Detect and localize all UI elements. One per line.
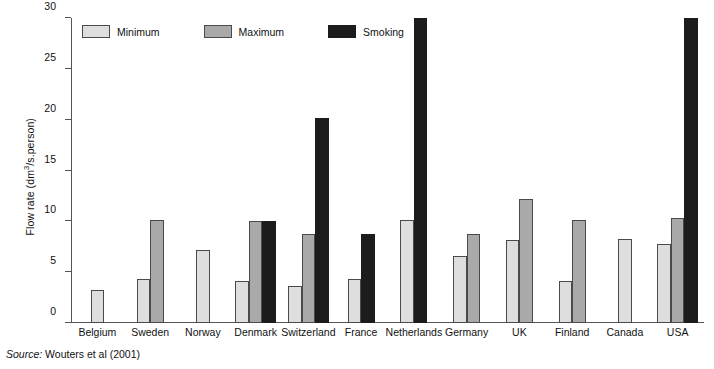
- bar-switzerland-minimum: [288, 286, 302, 323]
- y-axis-title-superscript: 3: [22, 166, 31, 170]
- x-axis-label-sweden: Sweden: [131, 326, 169, 338]
- bar-germany-minimum: [453, 256, 467, 323]
- x-axis-label-uk: UK: [512, 326, 527, 338]
- bar-sweden-minimum: [137, 279, 151, 323]
- y-axis-title-prefix: Flow rate (dm: [24, 170, 36, 235]
- y-axis-title-suffix: /s.person): [24, 118, 36, 166]
- bar-canada-minimum: [618, 239, 632, 323]
- y-axis-tick: 10: [65, 220, 71, 221]
- x-axis-label-germany: Germany: [445, 326, 488, 338]
- legend-item-maximum[interactable]: Maximum: [204, 25, 285, 38]
- bar-sweden-maximum: [150, 220, 164, 323]
- x-axis-label-belgium: Belgium: [78, 326, 116, 338]
- bar-finland-minimum: [559, 281, 573, 323]
- y-axis-tick: 15: [65, 170, 71, 171]
- x-axis-label-netherlands: Netherlands: [386, 326, 443, 338]
- y-axis-tick: 0: [65, 322, 71, 323]
- legend-swatch-maximum: [204, 25, 232, 38]
- bar-norway-minimum: [196, 250, 210, 323]
- y-axis-tick: 25: [65, 68, 71, 69]
- legend-swatch-minimum: [82, 25, 110, 38]
- x-axis-label-denmark: Denmark: [234, 326, 277, 338]
- legend-swatch-smoking: [328, 25, 356, 38]
- x-axis-label-switzerland: Switzerland: [281, 326, 335, 338]
- y-axis-tick-label: 30: [44, 0, 56, 12]
- bar-denmark-smoking: [262, 221, 276, 323]
- bar-belgium-minimum: [91, 290, 105, 323]
- source-label: Source:: [6, 348, 42, 360]
- y-axis-tick-label: 15: [44, 153, 56, 165]
- x-axis-label-france: France: [345, 326, 378, 338]
- legend-label-smoking: Smoking: [363, 26, 404, 38]
- chart-figure: Flow rate (dm3/s.person) 051015202530 Be…: [0, 0, 714, 369]
- x-axis-label-canada: Canada: [606, 326, 643, 338]
- y-axis-tick: 20: [65, 119, 71, 120]
- y-axis-tick: 5: [65, 271, 71, 272]
- bar-netherlands-minimum: [400, 220, 414, 323]
- y-axis-tick-label: 20: [44, 102, 56, 114]
- y-axis-tick: 30: [65, 17, 71, 18]
- y-axis-tick-label: 0: [50, 305, 56, 317]
- source-text: Wouters et al (2001): [45, 348, 140, 360]
- source-note: Source: Wouters et al (2001): [6, 348, 140, 360]
- bar-germany-maximum: [467, 234, 481, 323]
- bar-uk-maximum: [519, 199, 533, 323]
- legend-item-minimum[interactable]: Minimum: [82, 25, 160, 38]
- bar-france-minimum: [348, 279, 362, 323]
- bar-finland-maximum: [572, 220, 586, 323]
- bar-france-smoking: [361, 234, 375, 323]
- bar-denmark-maximum: [249, 221, 263, 323]
- plot-area: 051015202530 BelgiumSwedenNorwayDenmarkS…: [71, 18, 704, 323]
- x-axis-label-usa: USA: [667, 326, 689, 338]
- legend-label-minimum: Minimum: [117, 26, 160, 38]
- bar-netherlands-smoking: [414, 18, 428, 323]
- y-axis-title: Flow rate (dm3/s.person): [22, 82, 36, 272]
- x-axis-line: [71, 322, 704, 323]
- bar-usa-minimum: [657, 244, 671, 323]
- x-axis-label-norway: Norway: [185, 326, 221, 338]
- bar-denmark-minimum: [235, 281, 249, 323]
- bar-switzerland-smoking: [315, 118, 329, 323]
- legend-label-maximum: Maximum: [239, 26, 285, 38]
- y-axis-tick-label: 5: [50, 254, 56, 266]
- y-axis-line: [71, 18, 72, 323]
- bar-switzerland-maximum: [302, 234, 316, 323]
- bar-usa-maximum: [671, 218, 685, 323]
- bar-usa-smoking: [684, 18, 698, 323]
- bar-uk-minimum: [506, 240, 520, 323]
- legend-item-smoking[interactable]: Smoking: [328, 25, 404, 38]
- chart-legend: MinimumMaximumSmoking: [82, 25, 448, 38]
- y-axis-tick-label: 25: [44, 51, 56, 63]
- x-axis-label-finland: Finland: [555, 326, 589, 338]
- y-axis-tick-label: 10: [44, 203, 56, 215]
